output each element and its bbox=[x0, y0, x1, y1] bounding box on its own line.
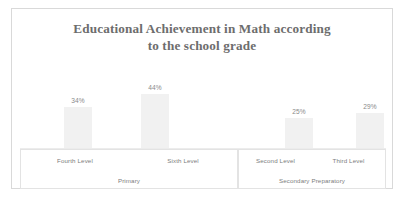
bar-fourth-level[interactable] bbox=[64, 107, 92, 149]
chart-title-line-2: to the school grade bbox=[12, 38, 392, 55]
chart-panel: Educational Achievement in Math accordin… bbox=[11, 8, 393, 189]
category-table-primary: Fourth Level Sixth Level Primary bbox=[20, 149, 238, 189]
bar-value-fourth-level: 34% bbox=[52, 97, 104, 104]
bar-slot-sixth-level: 44% bbox=[141, 71, 169, 149]
group-row-primary: Primary bbox=[21, 171, 237, 189]
bar-second-level[interactable] bbox=[285, 118, 313, 149]
bar-slot-second-level: 25% bbox=[285, 71, 313, 149]
bar-value-third-level: 29% bbox=[344, 103, 396, 110]
category-label-fourth-level: Fourth Level bbox=[21, 150, 129, 171]
category-row-secondary-preparatory: Second Level Third Level bbox=[239, 150, 385, 171]
bar-slot-fourth-level: 34% bbox=[64, 71, 92, 149]
category-label-second-level: Second Level bbox=[239, 150, 312, 171]
plot-area: 34% 44% 25% 29% bbox=[12, 71, 394, 149]
bar-value-second-level: 25% bbox=[273, 108, 325, 115]
category-label-third-level: Third Level bbox=[312, 150, 385, 171]
category-table-secondary-preparatory: Second Level Third Level Secondary Prepa… bbox=[238, 149, 386, 189]
bar-value-sixth-level: 44% bbox=[129, 84, 181, 91]
group-label-secondary-preparatory: Secondary Preparatory bbox=[279, 177, 345, 184]
group-row-secondary-preparatory: Secondary Preparatory bbox=[239, 171, 385, 189]
category-row-primary: Fourth Level Sixth Level bbox=[21, 150, 237, 171]
group-label-primary: Primary bbox=[118, 177, 140, 184]
chart-title: Educational Achievement in Math accordin… bbox=[12, 21, 392, 54]
category-tables: Fourth Level Sixth Level Primary Second … bbox=[12, 149, 394, 190]
bar-sixth-level[interactable] bbox=[141, 94, 169, 149]
chart-title-line-1: Educational Achievement in Math accordin… bbox=[12, 21, 392, 38]
bar-slot-third-level: 29% bbox=[356, 71, 384, 149]
category-label-sixth-level: Sixth Level bbox=[129, 150, 237, 171]
bar-third-level[interactable] bbox=[356, 113, 384, 149]
